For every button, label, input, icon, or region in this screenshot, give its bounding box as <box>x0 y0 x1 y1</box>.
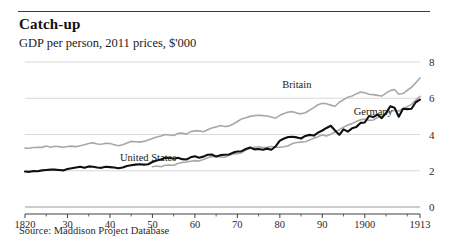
x-tick-label-90: 90 <box>317 219 328 230</box>
x-tick-label-80: 80 <box>275 219 286 230</box>
series-label-britain: Britain <box>282 79 312 90</box>
y-tick-label-2: 2 <box>429 165 435 177</box>
chart-figure: Catch-up GDP per person, 2011 prices, $'… <box>0 0 449 247</box>
y-tick-label-6: 6 <box>429 92 435 104</box>
y-tick-label-4: 4 <box>429 129 435 141</box>
line-chart: 0246818203040506070809019001913BritainGe… <box>0 0 449 247</box>
source-note: Source: Maddison Project Database <box>19 225 169 236</box>
x-tick-label-60: 60 <box>190 219 201 230</box>
series-label-united-states: United States <box>120 152 176 163</box>
y-tick-label-0: 0 <box>429 201 435 213</box>
x-tick-label-1913: 1913 <box>410 219 431 230</box>
y-tick-label-8: 8 <box>429 56 435 68</box>
series-label-germany: Germany <box>354 106 394 117</box>
x-tick-label-70: 70 <box>232 219 243 230</box>
x-tick-label-1900: 1900 <box>354 219 375 230</box>
